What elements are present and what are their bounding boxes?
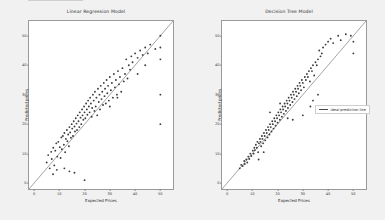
y-tick-mark xyxy=(220,65,222,66)
x-tick-label: 40 xyxy=(326,192,331,196)
x-tick-mark xyxy=(84,189,85,191)
x-tick-mark xyxy=(277,189,278,191)
y-tick-mark xyxy=(27,183,29,184)
y-tick-mark xyxy=(220,94,222,95)
x-tick-label: 40 xyxy=(133,192,138,196)
y-tick-mark xyxy=(220,153,222,154)
y-tick-label: 20 xyxy=(215,122,220,126)
y-tick-mark xyxy=(27,94,29,95)
chart-title-right: Decision Tree Model xyxy=(193,9,385,14)
x-tick-mark xyxy=(328,189,329,191)
x-tick-mark xyxy=(109,189,110,191)
x-tick-mark xyxy=(135,189,136,191)
y-tick-mark xyxy=(27,35,29,36)
y-tick-label: 40 xyxy=(215,63,220,67)
y-tick-label: 50 xyxy=(22,34,27,38)
x-tick-label: 50 xyxy=(158,192,163,196)
plot-area-right: Expected Prices Predicted prices ideal p… xyxy=(221,20,367,190)
x-tick-mark xyxy=(160,189,161,191)
legend-line-swatch-icon xyxy=(319,109,328,110)
x-tick-mark xyxy=(353,189,354,191)
scatter-plot-left xyxy=(29,21,173,189)
legend-right: ideal prediction line xyxy=(315,105,370,114)
x-tick-label: 10 xyxy=(57,192,62,196)
x-tick-mark xyxy=(34,189,35,191)
panel-linear-regression: Linear Regression Model Expected Prices … xyxy=(0,0,192,220)
figure-canvas: Linear Regression Model Expected Prices … xyxy=(0,0,385,220)
y-tick-mark xyxy=(27,65,29,66)
x-tick-mark xyxy=(252,189,253,191)
x-tick-label: 50 xyxy=(351,192,356,196)
y-tick-label: 10 xyxy=(22,152,27,156)
x-tick-label: 30 xyxy=(108,192,113,196)
x-axis-label-right: Expected Prices xyxy=(222,198,366,203)
y-tick-label: 0 xyxy=(217,181,219,185)
y-tick-mark xyxy=(220,124,222,125)
x-tick-label: 20 xyxy=(82,192,87,196)
y-tick-mark xyxy=(220,35,222,36)
x-tick-label: 30 xyxy=(301,192,306,196)
y-tick-mark xyxy=(220,183,222,184)
plot-area-left: Expected Prices Predicted prices 0102030… xyxy=(28,20,174,190)
y-tick-label: 30 xyxy=(215,93,220,97)
y-tick-label: 30 xyxy=(22,93,27,97)
x-tick-label: 10 xyxy=(250,192,255,196)
x-tick-label: 20 xyxy=(275,192,280,196)
legend-left: ideal prediction line xyxy=(28,0,83,1)
x-axis-label-left: Expected Prices xyxy=(29,198,173,203)
y-tick-mark xyxy=(27,124,29,125)
y-tick-label: 20 xyxy=(22,122,27,126)
x-tick-label: 0 xyxy=(33,192,35,196)
chart-title-left: Linear Regression Model xyxy=(0,9,192,14)
y-tick-label: 50 xyxy=(215,34,220,38)
x-tick-mark xyxy=(302,189,303,191)
y-tick-label: 40 xyxy=(22,63,27,67)
x-tick-mark xyxy=(227,189,228,191)
y-tick-label: 10 xyxy=(215,152,220,156)
y-tick-mark xyxy=(27,153,29,154)
x-tick-mark xyxy=(59,189,60,191)
panel-decision-tree: Decision Tree Model Expected Prices Pred… xyxy=(193,0,385,220)
y-tick-label: 0 xyxy=(24,181,26,185)
x-tick-label: 0 xyxy=(226,192,228,196)
legend-label-right: ideal prediction line xyxy=(331,108,367,112)
